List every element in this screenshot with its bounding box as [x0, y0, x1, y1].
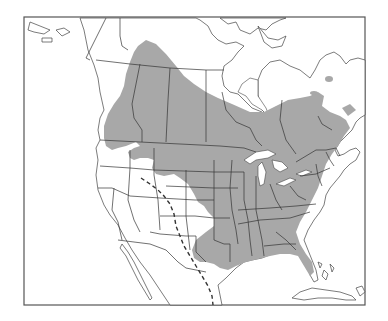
north-america-map [0, 0, 388, 321]
range-map [0, 0, 388, 321]
